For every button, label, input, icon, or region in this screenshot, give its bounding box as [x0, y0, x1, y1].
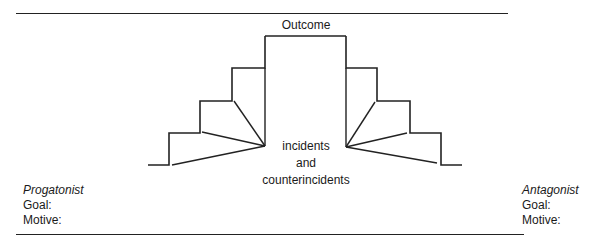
protagonist-heading: Progatonist — [23, 183, 84, 198]
incident-ray — [172, 146, 265, 165]
antagonist-staircase — [346, 36, 462, 165]
protagonist-block: Progatonist Goal: Motive: — [23, 183, 84, 228]
protagonist-staircase — [148, 36, 265, 165]
left-incident-rays — [172, 68, 265, 165]
plot-structure-diagram — [0, 0, 612, 249]
center-text: incidents and counterincidents — [256, 138, 356, 189]
center-text-line-1: incidents — [256, 138, 356, 155]
protagonist-motive-label: Motive: — [23, 213, 84, 228]
outcome-label: Outcome — [270, 18, 342, 32]
antagonist-motive-label: Motive: — [522, 213, 579, 228]
center-text-line-3: counterincidents — [256, 172, 356, 189]
incident-ray — [346, 147, 437, 163]
protagonist-goal-label: Goal: — [23, 198, 84, 213]
antagonist-heading: Antagonist — [522, 183, 579, 198]
center-text-line-2: and — [256, 155, 356, 172]
antagonist-goal-label: Goal: — [522, 198, 579, 213]
right-incident-rays — [346, 68, 437, 163]
antagonist-block: Antagonist Goal: Motive: — [522, 183, 579, 228]
